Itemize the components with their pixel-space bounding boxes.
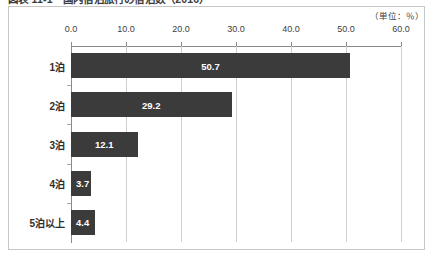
gridline	[401, 46, 402, 242]
x-axis-tick	[346, 42, 347, 46]
y-category-label: 1泊	[49, 58, 65, 73]
x-axis-tick	[126, 42, 127, 46]
y-axis-category-labels: 1泊2泊3泊4泊5泊以上	[0, 46, 71, 242]
bar-value-label: 12.1	[95, 139, 114, 150]
x-axis-tick-labels: 0.010.020.030.040.050.060.0	[0, 24, 433, 38]
x-tick-label: 60.0	[392, 24, 410, 34]
y-category-label: 4泊	[49, 176, 65, 191]
x-axis-tick	[71, 42, 72, 46]
bar-value-label: 50.7	[201, 60, 220, 71]
bar-row[interactable]: 3.7	[71, 171, 401, 196]
x-tick-label: 50.0	[337, 24, 355, 34]
bar-row[interactable]: 50.7	[71, 53, 401, 78]
bar-value-label: 4.4	[76, 217, 89, 228]
x-axis-tick	[181, 42, 182, 46]
x-tick-label: 10.0	[117, 24, 135, 34]
bar-row[interactable]: 4.4	[71, 210, 401, 235]
x-tick-label: 30.0	[227, 24, 245, 34]
x-tick-label: 0.0	[65, 24, 78, 34]
x-tick-label: 40.0	[282, 24, 300, 34]
x-tick-label: 20.0	[172, 24, 190, 34]
bar-row[interactable]: 29.2	[71, 92, 401, 117]
y-category-label: 5泊以上	[29, 215, 65, 230]
x-axis-tick	[291, 42, 292, 46]
y-category-label: 2泊	[49, 97, 65, 112]
bar-value-label: 29.2	[142, 99, 161, 110]
unit-note: （単位：％）	[370, 9, 424, 21]
x-axis-tick	[236, 42, 237, 46]
bar-row[interactable]: 12.1	[71, 132, 401, 157]
y-category-label: 3泊	[49, 137, 65, 152]
bar-value-label: 3.7	[76, 178, 89, 189]
x-axis-tick	[401, 42, 402, 46]
plot-area: 50.729.212.13.74.4	[71, 46, 401, 242]
